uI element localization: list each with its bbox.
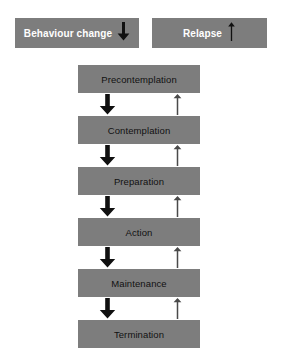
legend-label-behaviour-change: Behaviour change <box>24 28 112 39</box>
legend-item-behaviour-change: Behaviour change <box>15 18 139 48</box>
stage-label: Termination <box>114 329 164 340</box>
arrow-up-icon <box>171 145 184 170</box>
arrow-up-icon <box>171 94 184 119</box>
arrow-up-icon <box>171 247 184 272</box>
arrow-down-icon <box>99 145 116 170</box>
stage-label: Preparation <box>114 176 164 187</box>
stage-box-termination: Termination <box>78 320 200 348</box>
arrow-up-icon <box>227 22 236 45</box>
stage-label: Contemplation <box>108 125 171 136</box>
arrow-down-icon <box>117 22 130 45</box>
arrow-up-icon <box>171 196 184 221</box>
stage-box-contemplation: Contemplation <box>78 116 200 144</box>
stage-label: Maintenance <box>111 278 167 289</box>
stages-of-change-diagram: Behaviour change Relapse Precontemplatio… <box>0 0 283 353</box>
arrow-down-icon <box>99 94 116 119</box>
stage-box-maintenance: Maintenance <box>78 269 200 297</box>
arrow-down-icon <box>99 247 116 272</box>
arrow-down-icon <box>99 298 116 323</box>
arrow-down-icon <box>99 196 116 221</box>
stage-box-preparation: Preparation <box>78 167 200 195</box>
arrow-up-icon <box>171 298 184 323</box>
stage-box-action: Action <box>78 218 200 246</box>
stage-label: Precontemplation <box>101 74 177 85</box>
legend-item-relapse: Relapse <box>152 18 267 48</box>
stage-label: Action <box>125 227 152 238</box>
legend-label-relapse: Relapse <box>183 28 222 39</box>
stage-box-precontemplation: Precontemplation <box>78 65 200 93</box>
